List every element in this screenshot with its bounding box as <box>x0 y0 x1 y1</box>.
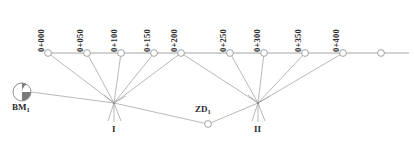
chainage-label-0+000: 0+000 <box>36 29 46 52</box>
sightline-II-to-0+300 <box>258 53 264 103</box>
sightline-I-to-0+050 <box>87 53 114 103</box>
instrument-station-I-icon <box>104 95 126 122</box>
chainage-label-0+100: 0+100 <box>109 29 119 52</box>
instrument-station-II-label: II <box>254 124 261 134</box>
turning-point-label: ZD1 <box>195 104 211 114</box>
sightline-I-to-ZD1 <box>114 103 208 124</box>
sightline-II-to-ZD1 <box>208 103 258 124</box>
chainage-label-0+150: 0+150 <box>142 29 152 52</box>
chainage-label-0+250: 0+250 <box>218 29 228 52</box>
benchmark-label-subscript: 1 <box>27 106 30 113</box>
chainage-label-0+350: 0+350 <box>293 29 303 52</box>
chainage-label-0+200: 0+200 <box>169 29 179 52</box>
sight-lines-station-1 <box>31 53 208 124</box>
sightline-II-to-0+400 <box>258 53 343 103</box>
instrument-station-I-label: I <box>112 124 116 134</box>
chainage-label-0+400: 0+400 <box>331 29 341 52</box>
sightline-II-to-0+200 <box>181 53 258 103</box>
benchmark-label-text: BM <box>12 102 27 112</box>
survey-diagram: 0+000 0+050 0+100 0+150 0+200 0+250 0+30… <box>0 0 415 142</box>
sightline-I-to-0+200 <box>114 53 181 103</box>
chainage-node-end <box>378 50 385 57</box>
sightline-II-to-0+250 <box>230 53 258 103</box>
chainage-label-0+050: 0+050 <box>75 29 85 52</box>
benchmark-icon <box>13 83 31 101</box>
benchmark-label: BM1 <box>12 102 30 112</box>
turning-point-node-ZD1 <box>205 121 212 128</box>
sightline-II-to-0+350 <box>258 53 305 103</box>
chainage-label-0+300: 0+300 <box>252 29 262 52</box>
turning-point-label-text: ZD <box>195 104 208 114</box>
turning-point-label-subscript: 1 <box>208 108 211 115</box>
survey-diagram-canvas <box>0 0 415 142</box>
